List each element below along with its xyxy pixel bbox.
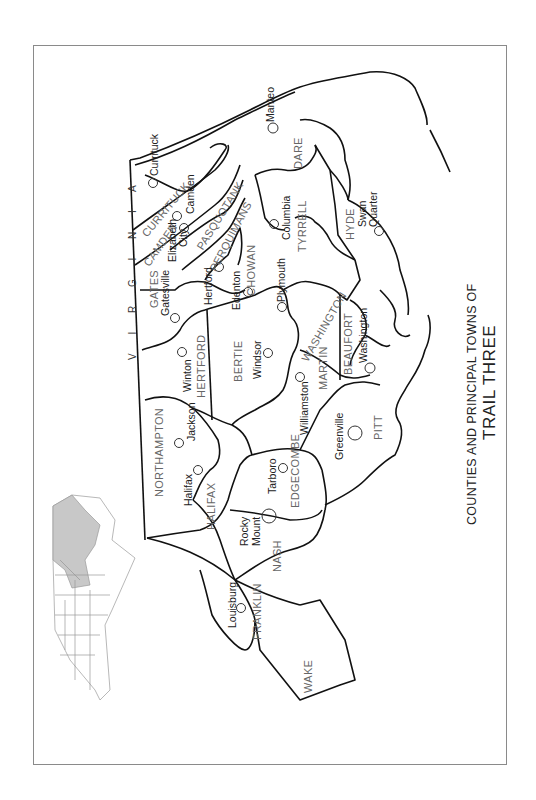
town-label-manteo: Manteo xyxy=(265,87,276,122)
town-marker-winton xyxy=(178,348,187,357)
inset-locator-map xyxy=(53,495,135,700)
town-label-swan: Swan xyxy=(357,201,368,227)
town-marker-swan-quarter xyxy=(375,227,384,236)
map-title-line1: COUNTIES AND PRINCIPAL TOWNS OF xyxy=(466,283,479,525)
county-label-northampton: NORTHAMPTON xyxy=(154,408,165,497)
town-label-mount: Mount xyxy=(251,517,262,546)
county-label-dare: DARE xyxy=(293,137,304,169)
town-marker-windsor xyxy=(264,349,273,358)
town-label-winton: Winton xyxy=(182,359,193,392)
county-label-edgecombe: EDGECOMBE xyxy=(290,434,301,508)
town-label-hertford: Hertford xyxy=(203,267,214,305)
town-label-greenville: Greenville xyxy=(334,413,345,460)
town-marker-plymouth xyxy=(278,303,287,312)
town-marker-manteo xyxy=(268,123,278,133)
county-label-bertie: BERTIE xyxy=(233,341,244,382)
county-label-tyrrell: TYRRELL xyxy=(297,200,308,252)
town-label-louisburg: Louisburg xyxy=(227,582,238,628)
county-label-hertford: HERTFORD xyxy=(196,335,207,398)
town-label-windsor: Windsor xyxy=(252,340,263,379)
town-label-rocky: Rocky xyxy=(239,517,250,546)
town-label-quarter: Quarter xyxy=(368,191,379,227)
town-label-columbia: Columbia xyxy=(281,196,292,240)
town-label-city: City xyxy=(178,229,189,247)
county-label-chowan: CHOWAN xyxy=(246,245,257,297)
town-marker-currituck xyxy=(149,179,158,188)
town-label-currituck: Currituck xyxy=(149,134,160,176)
county-label-hyde: HYDE xyxy=(345,208,356,240)
town-label-gatesville: Gatesville xyxy=(160,270,171,316)
town-marker-washington xyxy=(365,363,375,373)
town-label-elizabeth: Elizabeth xyxy=(167,219,178,262)
town-label-halifax: Halifax xyxy=(183,474,194,506)
town-label-williamston: Williamston xyxy=(299,381,310,435)
town-marker-halifax xyxy=(194,466,203,475)
county-label-nash: NASH xyxy=(272,540,283,572)
county-label-franklin: FRANKLIN xyxy=(252,583,263,640)
town-label-edenton: Edenton xyxy=(231,271,242,310)
town-marker-jackson xyxy=(175,439,184,448)
town-label-washington: Washington xyxy=(358,308,369,363)
county-label-halifax: HALIFAX xyxy=(206,483,217,530)
county-label-beaufort: BEAUFORT xyxy=(343,313,354,375)
town-label-camden: Camden xyxy=(185,174,196,214)
town-marker-tarboro xyxy=(279,464,288,473)
town-label-jackson: Jackson xyxy=(186,402,197,441)
county-label-wake: WAKE xyxy=(303,660,314,693)
town-marker-greenville xyxy=(348,426,362,440)
county-borders xyxy=(130,72,450,700)
town-label-tarboro: Tarboro xyxy=(267,458,278,494)
virginia-label: V I R G I N I A xyxy=(128,177,138,360)
town-label-plymouth: Plymouth xyxy=(276,258,287,302)
map-title-line2: TRAIL THREE xyxy=(481,325,498,440)
county-label-martin: MARTIN xyxy=(318,346,329,390)
county-label-pitt: PITT xyxy=(373,415,384,440)
town-marker-gatesville xyxy=(171,314,180,323)
